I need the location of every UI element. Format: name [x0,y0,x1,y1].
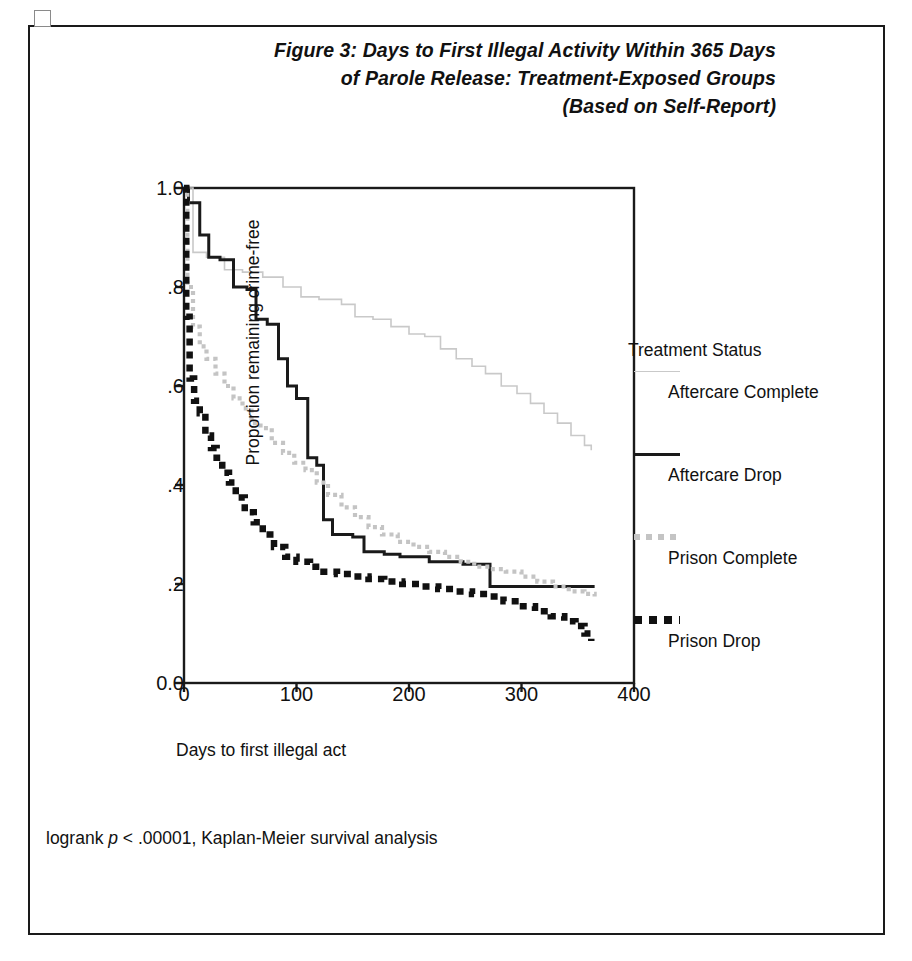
footnote-p-symbol: p [108,828,118,848]
x-axis-title: Days to first illegal act [176,740,346,761]
legend-label-aftercare-drop: Aftercare Drop [668,465,782,486]
y-axis-tick-labels: 0.0.2.4.6.81.0 [138,184,184,679]
x-tick-label: 0 [154,684,214,704]
legend-swatch-prison-drop-icon [634,616,680,624]
figure-title-line-3: (Based on Self-Report) [150,92,776,120]
x-tick-label: 300 [492,684,552,704]
legend-item-aftercare-drop[interactable]: Aftercare Drop [628,449,878,532]
plot-panel: Proportion remaining crime-free 0.0.2.4.… [156,184,656,729]
x-tick-label: 100 [267,684,327,704]
y-tick-label: .2 [138,574,184,594]
legend-title: Treatment Status [628,340,878,361]
figure-title: Figure 3: Days to First Illegal Activity… [150,36,790,120]
y-tick-label: .8 [138,277,184,297]
legend-swatch-aftercare-complete-icon [634,371,680,372]
legend-label-aftercare-complete: Aftercare Complete [668,382,819,403]
x-tick-label: 200 [379,684,439,704]
legend-item-prison-drop[interactable]: Prison Drop [628,615,878,698]
footnote-suffix: < .00001, Kaplan-Meier survival analysis [118,828,438,848]
footnote: logrank p < .00001, Kaplan-Meier surviva… [46,828,438,849]
legend-item-prison-complete[interactable]: Prison Complete [628,532,878,615]
y-axis-title: Proportion remaining crime-free [243,178,264,508]
survival-curves-plot [156,184,656,729]
figure-title-line-2: of Parole Release: Treatment-Exposed Gro… [150,64,776,92]
legend: Treatment Status Aftercare Complete Afte… [628,340,878,698]
x-axis-tick-labels: 0100200300400 [184,684,634,712]
legend-item-aftercare-complete[interactable]: Aftercare Complete [628,366,878,449]
footnote-prefix: logrank [46,828,108,848]
legend-label-prison-drop: Prison Drop [668,631,760,652]
figure-title-line-1: Figure 3: Days to First Illegal Activity… [150,36,776,64]
legend-label-prison-complete: Prison Complete [668,548,797,569]
legend-swatch-aftercare-drop-icon [634,453,680,456]
y-tick-label: .6 [138,376,184,396]
y-tick-label: 1.0 [138,178,184,198]
y-tick-label: .4 [138,475,184,495]
legend-swatch-prison-complete-icon [634,534,680,540]
empty-square-bullet-icon [34,10,51,27]
